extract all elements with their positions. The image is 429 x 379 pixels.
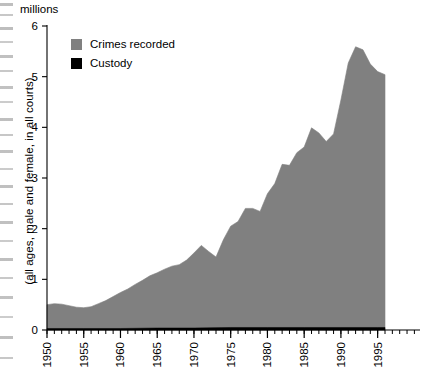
y-axis-tick-label: 3 [32,172,38,184]
x-axis-tick-label: 1960 [114,342,126,368]
x-axis-tick-label: 1955 [78,342,90,368]
crime-statistics-area-chart: millions (all ages, male and female, in … [0,0,429,379]
y-axis-tick-label: 2 [32,223,38,235]
x-axis-tick-label: 1970 [188,342,200,368]
x-axis-tick-label: 1985 [298,342,310,368]
x-axis-tick-label: 1975 [225,342,237,368]
plot-area: 0123456195019551960196519701975198019851… [0,0,429,379]
x-axis-tick-label: 1990 [335,342,347,368]
x-axis-tick-label: 1995 [372,342,384,368]
y-axis-tick-label: 0 [32,324,38,336]
y-axis-tick-label: 5 [32,71,38,83]
x-axis-tick-label: 1965 [151,342,163,368]
y-axis-tick-label: 4 [32,121,39,133]
area-series-crimes-recorded [47,47,385,330]
y-axis-tick-label: 1 [32,273,38,285]
y-axis-tick-label: 6 [32,20,38,32]
x-axis-tick-label: 1980 [261,342,273,368]
x-axis-tick-label: 1950 [41,342,53,368]
